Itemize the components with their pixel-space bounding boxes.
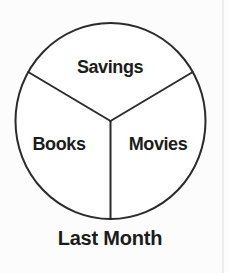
pie-chart-figure: Savings Books Movies Last Month — [0, 0, 229, 273]
slice-label-savings: Savings — [77, 57, 144, 77]
slice-label-books: Books — [32, 134, 85, 154]
chart-title: Last Month — [58, 227, 163, 249]
pie-chart-svg: Savings Books Movies Last Month — [0, 0, 229, 273]
slice-label-movies: Movies — [129, 134, 188, 154]
scan-edge-artifact — [222, 0, 224, 273]
